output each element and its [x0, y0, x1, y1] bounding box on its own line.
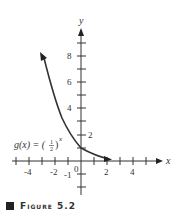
y-axis-label: y — [78, 15, 84, 26]
fraction-denominator: 2 — [50, 146, 53, 152]
curve-arrow-left-icon — [40, 52, 47, 61]
x-axis-arrow-icon — [156, 158, 163, 164]
x-tick-label: 2 — [104, 167, 109, 177]
y-tick-label: 6 — [67, 77, 72, 87]
y-tick-label: 4 — [67, 103, 72, 113]
y-tick-label: 2 — [88, 130, 93, 140]
y-axis-arrow-icon — [78, 28, 84, 36]
function-label-close: ) — [55, 139, 58, 151]
x-tick-label: 0 — [74, 164, 79, 174]
function-curve — [44, 58, 109, 159]
function-label-text: g(x) = ( — [14, 139, 46, 151]
caption-square-icon — [6, 202, 14, 210]
x-axis-label: x — [165, 155, 171, 166]
caption-text: Figure 5.2 — [20, 201, 76, 211]
x-tick-label: 4 — [130, 167, 135, 177]
x-axis: x -4 -2 0 2 4 — [12, 155, 171, 177]
x-tick-label: -2 — [50, 167, 58, 177]
x-tick-label: -4 — [24, 167, 32, 177]
y-tick-label: -1 — [64, 170, 72, 180]
y-tick-label: 8 — [67, 51, 72, 61]
figure-caption: Figure 5.2 — [6, 201, 76, 211]
function-graph: x -4 -2 0 2 4 y 8 6 4 2 -1 — [0, 0, 185, 217]
function-label-exponent: x — [58, 135, 63, 143]
function-label: g(x) = ( 1 2 ) x — [14, 135, 63, 152]
fraction-numerator: 1 — [50, 139, 53, 145]
